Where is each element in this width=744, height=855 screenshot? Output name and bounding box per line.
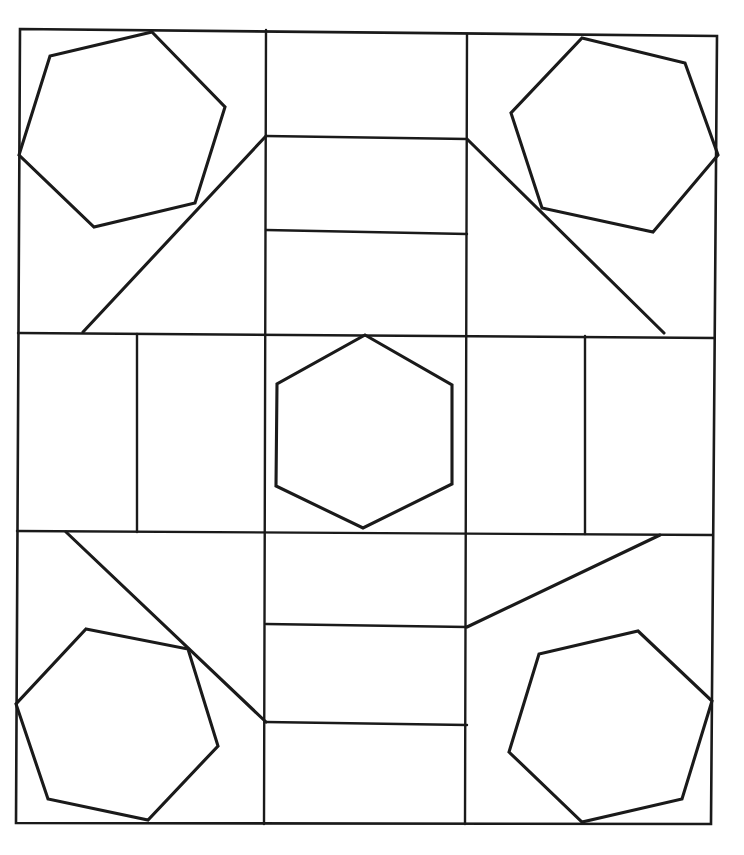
line-drawing-canvas-container	[0, 0, 744, 855]
geometric-pattern-svg	[0, 0, 744, 855]
page-background	[0, 0, 744, 855]
